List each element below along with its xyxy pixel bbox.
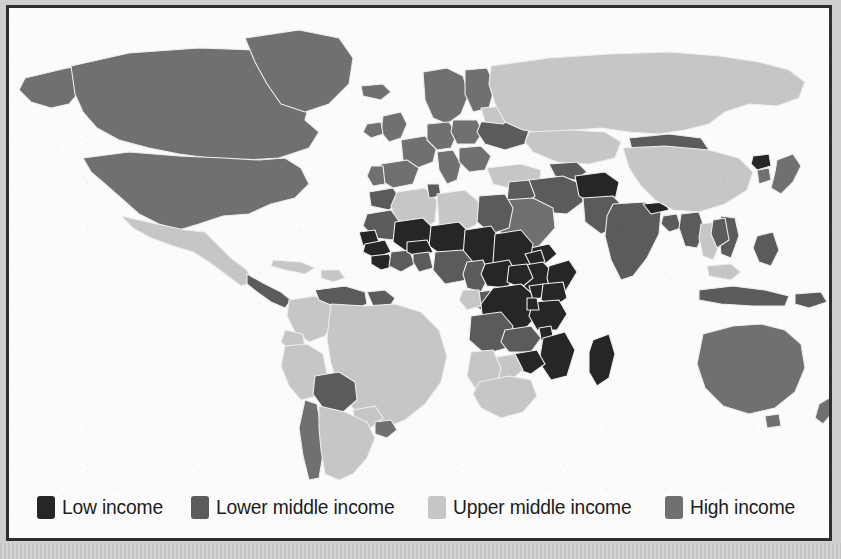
region-north-korea — [751, 154, 771, 170]
region-cuba — [271, 260, 315, 274]
region-kazakhstan — [525, 130, 621, 164]
region-russia — [489, 52, 805, 134]
figure-container: .r { stroke: #eeeeee; stroke-width: 1.1;… — [0, 0, 841, 559]
region-ghana-togo — [413, 252, 433, 272]
region-australia — [697, 324, 805, 414]
region-italy — [437, 150, 461, 184]
legend-swatch-lower-middle-income — [191, 496, 209, 519]
region-central-america — [247, 274, 291, 308]
region-caribbean — [321, 270, 345, 282]
region-tasmania — [765, 414, 781, 428]
region-united-kingdom — [381, 112, 407, 142]
legend-swatch-upper-middle-income — [428, 496, 446, 519]
legend-label-high-income: High income — [690, 495, 795, 519]
world-map-svg: .r { stroke: #eeeeee; stroke-width: 1.1;… — [9, 8, 829, 483]
legend-label-lower-middle-income: Lower middle income — [216, 495, 395, 519]
region-gabon — [459, 290, 481, 310]
region-norway-sweden — [423, 68, 469, 124]
region-mozambique — [539, 332, 575, 380]
region-rwanda-burundi — [527, 298, 539, 310]
legend-item-lower-middle-income: Lower middle income — [191, 495, 406, 519]
region-new-zealand — [815, 398, 829, 424]
region-papua-new-guinea — [795, 292, 827, 308]
map-frame: .r { stroke: #eeeeee; stroke-width: 1.1;… — [6, 5, 832, 541]
region-japan — [771, 154, 801, 194]
region-portugal — [367, 166, 385, 186]
region-south-africa — [473, 376, 537, 418]
legend: Low income Lower middle income Upper mid… — [9, 484, 829, 530]
legend-swatch-high-income — [665, 496, 683, 519]
legend-item-low-income: Low income — [37, 495, 169, 519]
legend-label-low-income: Low income — [62, 495, 163, 519]
region-indonesia — [699, 286, 789, 306]
region-balkans — [459, 146, 491, 172]
region-malaysia — [707, 264, 741, 280]
legend-swatch-low-income — [37, 496, 55, 519]
legend-item-high-income: High income — [665, 495, 802, 519]
region-philippines — [753, 232, 779, 266]
region-bangladesh — [661, 214, 681, 232]
region-ireland — [363, 122, 383, 138]
world-map: .r { stroke: #eeeeee; stroke-width: 1.1;… — [9, 8, 829, 483]
region-zambia — [501, 326, 541, 352]
region-madagascar — [589, 334, 615, 386]
region-south-korea — [757, 168, 771, 184]
legend-item-upper-middle-income: Upper middle income — [428, 495, 643, 519]
legend-label-upper-middle-income: Upper middle income — [453, 495, 632, 519]
region-iceland — [361, 84, 391, 100]
scan-margin-band — [0, 543, 841, 559]
region-united-states — [83, 152, 309, 230]
